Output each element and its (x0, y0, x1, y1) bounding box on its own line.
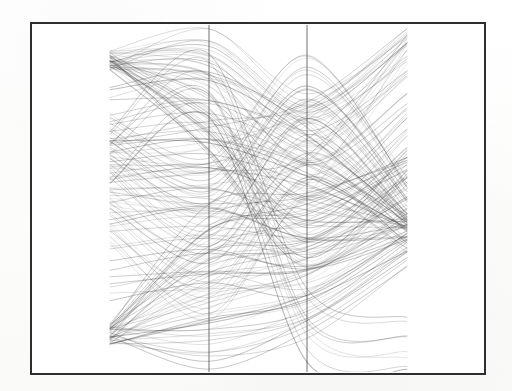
parallel-coordinates-plot (32, 24, 484, 373)
figure-page (0, 0, 512, 391)
figure-frame-border (30, 22, 486, 375)
